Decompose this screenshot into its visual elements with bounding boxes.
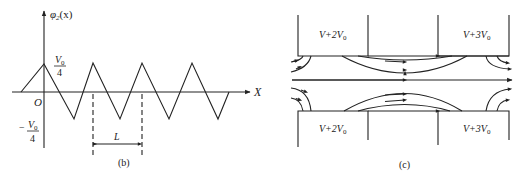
triangle-wave [21,63,229,119]
origin-label: O [34,96,42,108]
svg-text:V0: V0 [55,54,65,67]
caption-c: (c) [399,159,410,171]
top-left-potential-label: V+2V0 [319,29,347,42]
svg-text:4: 4 [30,133,35,144]
diagram-canvas: φ2(x) X O V0 4 − V0 4 L (b) [0,0,521,186]
x-axis-label: X [253,85,262,99]
bottom-field-line-1 [344,94,462,112]
top-field-line-1 [342,56,467,73]
svg-text:V0: V0 [28,119,38,132]
bottom-right-potential-label: V+3V0 [463,123,491,136]
bottom-right-curl-2 [497,100,508,111]
svg-text:4: 4 [57,67,62,78]
caption-b: (b) [118,157,130,169]
figure-b [12,11,250,155]
top-field-line-2 [358,56,452,60]
period-label: L [113,131,120,142]
top-right-potential-label: V+3V0 [463,29,491,42]
bottom-field-line-2 [358,105,450,112]
bottom-left-potential-label: V+2V0 [319,123,347,136]
peak-value-label: V0 4 [54,54,66,78]
trough-value-label: − V0 4 [19,119,39,144]
bottom-left-curl-2 [291,98,303,111]
bottom-left-curl-1 [291,88,311,111]
svg-text:−: − [19,122,25,133]
top-right-curl-2 [497,56,508,63]
y-axis-label: φ2(x) [50,8,73,22]
